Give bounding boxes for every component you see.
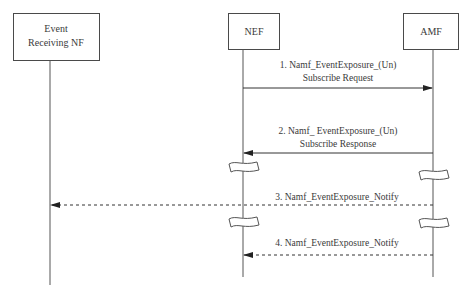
break-symbol-icon [229,162,259,172]
participant-label-line-2: Receiving NF [28,37,84,48]
message-label-line-1: 2. Namf_ EventExposure_(Un) [279,126,398,137]
message-4: 4. Namf_EventExposure_Notify [244,238,433,255]
participant-amf: AMF [404,14,459,50]
break-symbol-icon [419,170,449,180]
participant-event-receiving-nf: Event Receiving NF [14,14,100,61]
break-symbol-icon [419,218,449,228]
message-3: 3. Namf_EventExposure_Notify [51,192,433,205]
break-symbol-icon [229,217,259,227]
message-label-line-2: Subscribe Request [303,73,374,83]
message-label: 3. Namf_EventExposure_Notify [275,192,399,202]
participant-nef: NEF [229,14,280,50]
participant-label-line-1: Event [44,23,68,34]
sequence-diagram: Event Receiving NF NEF AMF 1. Namf_Event… [0,0,468,285]
message-2: 2. Namf_ EventExposure_(Un) Subscribe Re… [244,126,433,153]
message-label: 4. Namf_EventExposure_Notify [275,238,399,248]
message-label-line-2: Subscribe Response [300,139,376,149]
participant-label: AMF [420,26,442,37]
message-1: 1. Namf_EventExposure_(Un) Subscribe Req… [243,60,432,88]
participant-label: NEF [245,26,264,37]
message-label-line-1: 1. Namf_EventExposure_(Un) [280,60,397,71]
